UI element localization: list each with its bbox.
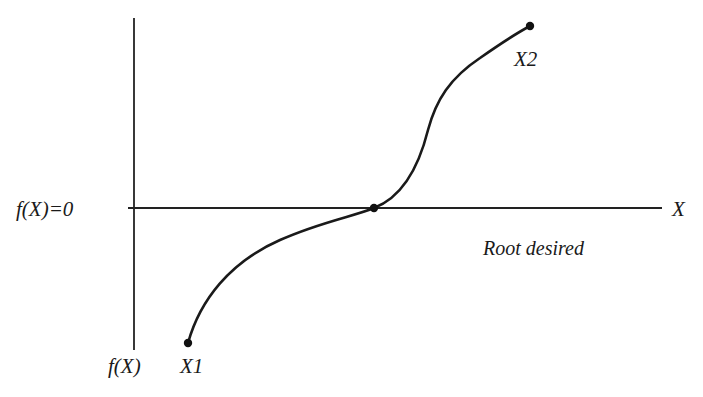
root-desired-annotation: Root desired	[482, 237, 585, 259]
horizontal-axis-label: X	[671, 197, 686, 221]
x1-label: X1	[179, 354, 203, 378]
horizontal-axis-left-label: f(X)=0	[16, 197, 74, 221]
x2-label: X2	[513, 47, 538, 71]
root-finding-diagram: f(X)=0 X f(X) X1 X2 Root desired	[0, 0, 703, 397]
point-root	[370, 204, 378, 212]
point-x1	[184, 339, 192, 347]
function-curve	[188, 26, 530, 343]
vertical-axis-label: f(X)	[108, 354, 141, 378]
point-x2	[526, 22, 534, 30]
